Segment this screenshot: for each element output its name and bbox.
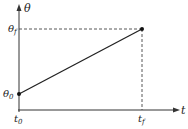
t-0-label: t0 [14, 113, 23, 126]
y-axis-arrow-icon [17, 4, 22, 11]
x-axis-arrow-icon [173, 108, 180, 113]
y-axis-label: θ [24, 2, 31, 15]
theta-line [19, 29, 142, 94]
x-axis-label: t [181, 104, 186, 117]
linear-theta-diagram: θ t θf θ0 t0 tf [0, 0, 188, 129]
t-f-label: tf [138, 113, 146, 126]
start-point [17, 92, 21, 96]
end-point [140, 27, 144, 31]
theta-0-label: θ0 [3, 88, 14, 101]
theta-f-label: θf [8, 23, 18, 36]
